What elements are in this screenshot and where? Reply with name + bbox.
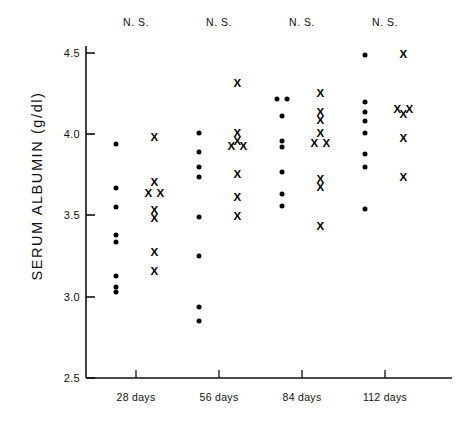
- data-point-dot: [280, 145, 285, 150]
- data-point-cross: X: [399, 172, 407, 184]
- data-point-dot: [114, 185, 119, 190]
- data-point-dot: [363, 52, 368, 57]
- x-tick-label-112-days: 112 days: [363, 391, 407, 403]
- data-point-dot: [275, 96, 280, 101]
- data-point-cross: X: [239, 142, 247, 154]
- data-point-dot: [363, 207, 368, 212]
- data-point-dot: [363, 109, 368, 114]
- data-point-dot: [197, 254, 202, 259]
- data-point-dot: [280, 192, 285, 197]
- data-point-cross: X: [399, 49, 407, 61]
- y-tick-label-4.0: 4.0: [64, 128, 80, 140]
- data-point-cross: X: [233, 169, 241, 181]
- data-point-dot: [197, 174, 202, 179]
- x-tick-label-84-days: 84 days: [283, 391, 322, 403]
- data-point-cross: X: [156, 189, 164, 201]
- data-point-cross: X: [322, 138, 330, 150]
- data-point-dot: [197, 130, 202, 135]
- x-tick-label-56-days: 56 days: [200, 391, 239, 403]
- y-tick-label-3.0: 3.0: [64, 291, 80, 303]
- data-point-dot: [363, 130, 368, 135]
- data-point-dot: [114, 205, 119, 210]
- x-tick-label-28-days: 28 days: [117, 391, 156, 403]
- data-point-cross: X: [316, 182, 324, 194]
- data-point-dot: [363, 151, 368, 156]
- data-point-dot: [197, 215, 202, 220]
- data-point-dot: [114, 289, 119, 294]
- annotation-ns-56-days: N. S.: [206, 16, 232, 28]
- data-point-dot: [114, 142, 119, 147]
- data-point-cross: X: [310, 138, 318, 150]
- data-point-cross: X: [399, 133, 407, 145]
- scatter-plot-chart: SERUM ALBUMIN (g/dl) 4.5 4.0 3.5 3.0 2.5…: [0, 0, 466, 425]
- data-point-cross: X: [150, 213, 158, 225]
- data-point-cross: X: [233, 192, 241, 204]
- data-point-cross: X: [150, 267, 158, 279]
- annotation-ns-84-days: N. S.: [289, 16, 315, 28]
- data-point-dot: [363, 164, 368, 169]
- data-point-dot: [280, 169, 285, 174]
- data-point-dot: [280, 138, 285, 143]
- data-point-dot: [114, 239, 119, 244]
- data-point-dot: [363, 99, 368, 104]
- data-point-cross: X: [227, 142, 235, 154]
- data-point-cross: X: [316, 116, 324, 128]
- annotation-ns-28-days: N. S.: [123, 16, 149, 28]
- data-point-cross: X: [233, 78, 241, 90]
- y-tick-label-3.5: 3.5: [64, 209, 80, 221]
- annotation-ns-112-days: N. S.: [372, 16, 398, 28]
- y-tick-label-2.5: 2.5: [64, 372, 80, 384]
- data-point-cross: X: [233, 211, 241, 223]
- data-point-dot: [280, 114, 285, 119]
- data-point-dot: [363, 119, 368, 124]
- data-point-cross: X: [399, 109, 407, 121]
- data-point-dot: [197, 150, 202, 155]
- data-point-dot: [114, 233, 119, 238]
- data-point-cross: X: [144, 189, 152, 201]
- data-point-dot: [197, 304, 202, 309]
- data-point-cross: X: [150, 132, 158, 144]
- y-axis-title: SERUM ALBUMIN (g/dl): [29, 71, 45, 301]
- data-point-dot: [197, 164, 202, 169]
- data-point-dot: [280, 203, 285, 208]
- data-point-cross: X: [150, 247, 158, 259]
- data-point-dot: [285, 96, 290, 101]
- data-point-cross: X: [316, 221, 324, 233]
- y-tick-label-4.5: 4.5: [64, 47, 80, 59]
- data-point-cross: X: [316, 88, 324, 100]
- data-point-dot: [197, 319, 202, 324]
- data-point-dot: [114, 273, 119, 278]
